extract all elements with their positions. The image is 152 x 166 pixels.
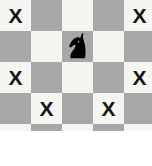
board-square-r0-c4[interactable]: X: [124, 0, 152, 31]
board-square-r3-c2[interactable]: [62, 93, 93, 124]
board-square-r3-c4[interactable]: [124, 93, 152, 124]
board-square-r1-c2[interactable]: [62, 31, 93, 62]
board-square-partial-c3[interactable]: [93, 124, 124, 131]
board-square-partial-c1[interactable]: [31, 124, 62, 131]
board-square-r3-c1[interactable]: X: [31, 93, 62, 124]
board-square-r3-c0[interactable]: [0, 93, 31, 124]
board-square-r1-c3[interactable]: [93, 31, 124, 62]
board-square-partial-c4[interactable]: [124, 124, 152, 131]
board-square-r0-c0[interactable]: X: [0, 0, 31, 31]
move-target-mark: X: [0, 0, 31, 31]
board-square-r2-c3[interactable]: [93, 62, 124, 93]
board-square-partial-c2[interactable]: [62, 124, 93, 131]
board-square-r1-c1[interactable]: [31, 31, 62, 62]
board-square-r2-c1[interactable]: [31, 62, 62, 93]
move-target-mark: X: [124, 0, 152, 31]
chessboard-grid[interactable]: XXXXXX: [0, 0, 152, 131]
move-target-mark: X: [31, 93, 62, 124]
move-target-mark: X: [93, 93, 124, 124]
board-square-r1-c4[interactable]: [124, 31, 152, 62]
board-square-partial-c0[interactable]: [0, 124, 31, 131]
board-square-r2-c2[interactable]: [62, 62, 93, 93]
page-background-filler: [0, 131, 152, 166]
black-knight-piece[interactable]: [62, 31, 93, 62]
move-target-mark: X: [0, 62, 31, 93]
board-square-r2-c0[interactable]: X: [0, 62, 31, 93]
board-square-r0-c3[interactable]: [93, 0, 124, 31]
board-square-r0-c1[interactable]: [31, 0, 62, 31]
board-square-r2-c4[interactable]: X: [124, 62, 152, 93]
chessboard-viewport: XXXXXX: [0, 0, 152, 131]
board-square-r3-c3[interactable]: X: [93, 93, 124, 124]
board-square-r0-c2[interactable]: [62, 0, 93, 31]
board-square-r1-c0[interactable]: [0, 31, 31, 62]
move-target-mark: X: [124, 62, 152, 93]
